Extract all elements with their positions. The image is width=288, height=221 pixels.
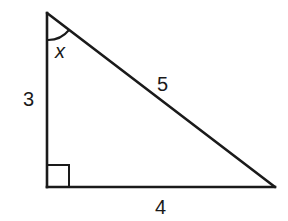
right-angle-marker (47, 165, 69, 187)
angle-label: x (54, 40, 66, 62)
horizontal-leg-label: 4 (155, 196, 166, 218)
triangle (47, 13, 275, 187)
angle-arc (47, 30, 69, 40)
vertical-leg-label: 3 (23, 88, 34, 110)
triangle-figure: x 3 5 4 (0, 0, 288, 221)
hypotenuse (47, 13, 275, 187)
hypotenuse-label: 5 (157, 73, 168, 95)
